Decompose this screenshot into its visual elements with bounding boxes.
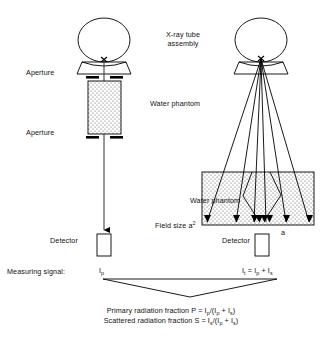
signal-value-right: It = Ip + Is bbox=[242, 266, 273, 278]
formula-scattered-fraction: Scattered radiation fraction S = Is/(Ip … bbox=[42, 316, 300, 328]
formula-primary-after: ) bbox=[233, 306, 236, 315]
right-setup bbox=[202, 18, 314, 256]
formula-primary-before: Primary radiation fraction P = I bbox=[107, 306, 207, 315]
detector-box-right bbox=[255, 234, 269, 256]
label-edge-length-a: a bbox=[281, 228, 285, 237]
signal-value-left: Ip bbox=[99, 266, 104, 278]
signal-left-subscript: p bbox=[101, 270, 104, 276]
label-aperture-bottom: Aperture bbox=[26, 128, 54, 137]
label-measuring-signal: Measuring signal: bbox=[7, 267, 65, 276]
xray-tube-bulb-right bbox=[235, 18, 287, 62]
formula-scattered-before: Scattered radiation fraction S = I bbox=[104, 316, 210, 325]
aperture-bar-bottom-left bbox=[86, 136, 99, 139]
aperture-bar-top-right bbox=[110, 76, 123, 79]
diagram-canvas bbox=[0, 0, 323, 338]
label-field-size-text: Field size a bbox=[155, 221, 193, 230]
aperture-bar-top-left bbox=[86, 76, 99, 79]
formula-primary-mid2: + I bbox=[219, 306, 230, 315]
label-water-phantom-left: Water phantom bbox=[150, 99, 200, 108]
label-detector-right: Detector bbox=[222, 236, 250, 245]
xray-tube-bulb-left bbox=[78, 18, 130, 62]
label-xray-tube-assembly: X-ray tube assembly bbox=[152, 30, 214, 48]
label-field-size: Field size a2 bbox=[155, 219, 196, 230]
label-water-phantom-right: Water phantom bbox=[190, 196, 240, 205]
aperture-bar-bottom-right bbox=[110, 136, 123, 139]
label-field-size-exponent: 2 bbox=[193, 220, 196, 226]
diagram-figure: X-ray tube assembly Aperture Aperture Wa… bbox=[0, 0, 323, 338]
detector-box-left bbox=[97, 234, 111, 256]
label-detector-left: Detector bbox=[50, 236, 78, 245]
signal-connector-v bbox=[103, 279, 277, 297]
formula-scattered-mid2: + I bbox=[222, 316, 233, 325]
signal-right-equals: = bbox=[246, 266, 255, 275]
label-aperture-top: Aperture bbox=[26, 68, 54, 77]
left-setup bbox=[77, 18, 131, 256]
signal-right-term2-subscript: s bbox=[270, 270, 273, 276]
signal-right-plus: + bbox=[259, 266, 268, 275]
water-phantom-left bbox=[88, 81, 121, 134]
formula-scattered-after: ) bbox=[236, 316, 239, 325]
